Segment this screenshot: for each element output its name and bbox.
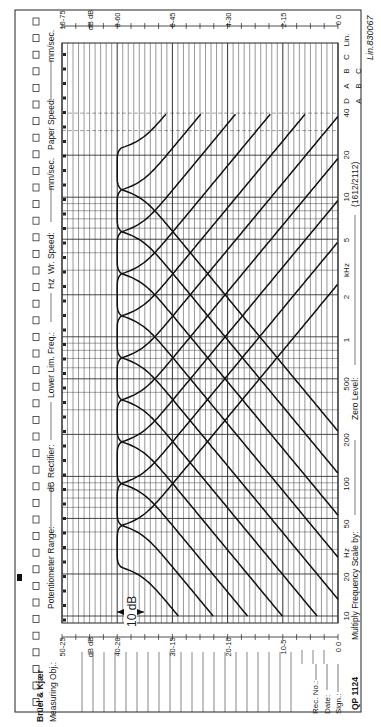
- weighting-label: C: [342, 54, 351, 60]
- potentiometer-unit: dB: [46, 481, 56, 492]
- weighting-label: D: [342, 98, 351, 104]
- zero-level-label: Zero Level:: [350, 377, 360, 420]
- form-id: QP 1124: [350, 677, 360, 710]
- chart-paper: Brüel & Kjær Measuring Obj.: Potentiomet…: [0, 0, 381, 727]
- serial-lin-prefix: Lin.: [365, 45, 375, 60]
- measuring-obj-label: Measuring Obj.:: [48, 662, 58, 722]
- weighting-label: C: [354, 68, 363, 74]
- weighting-label: Lin.: [342, 34, 351, 47]
- db-scale-label: 50-25: [58, 637, 67, 656]
- date-label: Date:: [323, 695, 332, 714]
- weighting-label: A: [342, 83, 351, 89]
- frequency-tick-label: 20: [342, 150, 351, 159]
- sprocket-holes: [33, 18, 39, 706]
- db-scale-label: dB dB: [86, 10, 95, 30]
- db-scale-label: 0 0: [334, 15, 343, 25]
- serial-number: Lin.830067: [365, 14, 375, 60]
- multiply-frequency-label: Multiply Frequency Scale by:: [350, 531, 360, 640]
- db-scale-label: 2-15: [279, 12, 288, 27]
- db-scale-label: 6-45: [168, 12, 177, 27]
- scale-bar-label: 10 dB: [125, 596, 139, 627]
- frequency-tick-label: 50: [342, 519, 351, 528]
- frequency-tick-label: 5: [342, 237, 351, 242]
- bottom-db-scale: 50-25dB dB40-2030-1520-1010-50 0: [58, 634, 343, 657]
- rec-no-label: Rec. No.:: [311, 681, 320, 714]
- wr-speed-label: Wr. Speed:: [46, 232, 56, 274]
- lower-lim-unit: Hz: [46, 279, 56, 289]
- frequency-tick-label: 200: [342, 433, 351, 447]
- measuring-obj-lines: [82, 650, 324, 712]
- db-scale-label: 10-75: [58, 10, 67, 29]
- header-labels: Brüel & Kjær Measuring Obj.: Potentiomet…: [35, 30, 58, 722]
- frequency-tick-label: 40: [342, 108, 351, 117]
- wr-speed-unit: mm/sec.: [46, 158, 56, 190]
- top-db-scale: 10-75dB dB8-606-454-302-150 0: [58, 10, 343, 30]
- db-scale-label: 40-20: [113, 637, 122, 656]
- weighting-label: B: [354, 83, 363, 88]
- brand-label: Brüel & Kjær: [35, 669, 45, 722]
- frequency-tick-label: 2: [342, 294, 351, 299]
- db-scale-label: 0 0: [334, 642, 343, 652]
- potentiometer-range-label: Potentiometer Range:: [46, 526, 56, 609]
- weighting-label: A: [354, 98, 363, 104]
- frequency-tick-label: 100: [342, 477, 351, 491]
- frequency-tick-label: kHz: [342, 263, 351, 277]
- paper-speed-label: Paper Speed:: [46, 98, 56, 150]
- lower-lim-freq-label: Lower Lim. Freq.:: [46, 332, 56, 398]
- weighting-label: B: [342, 68, 351, 73]
- db-scale-label: 8-60: [113, 12, 122, 27]
- weighting-labels: DABCLin.ABC: [342, 34, 363, 104]
- paper-speed-unit: mm/sec.: [46, 30, 56, 62]
- rectifier-label: Rectifier:: [46, 444, 56, 478]
- serial-value: 830067: [365, 14, 375, 45]
- paper-code: (1612/2112): [350, 162, 360, 207]
- marker-square: [17, 574, 22, 581]
- sign-label: Sign.:: [334, 694, 343, 714]
- frequency-tick-label: 1: [342, 337, 351, 342]
- db-scale-label: 4-30: [224, 12, 233, 27]
